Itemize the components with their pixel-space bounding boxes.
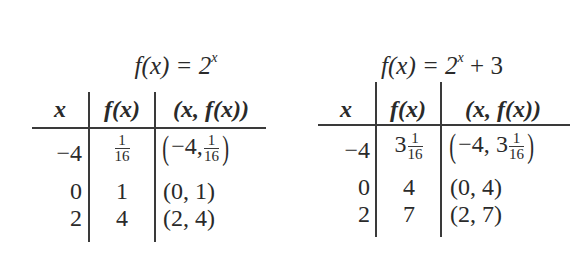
title-function: f(x) = 2 xyxy=(135,52,212,79)
cell-x: 2 xyxy=(32,205,82,232)
cell-fx: 4 xyxy=(377,174,441,201)
cell-pair: (−4, 3116) xyxy=(447,129,572,163)
title-suffix: + 3 xyxy=(464,52,503,79)
cell-fx: 1 xyxy=(90,178,154,205)
cell-pair: (0, 4) xyxy=(450,174,570,201)
fraction-denominator: 16 xyxy=(509,147,524,162)
fraction: 116 xyxy=(115,133,130,164)
cell-fx: 7 xyxy=(377,201,441,228)
close-paren: ) xyxy=(222,131,229,165)
header-divider xyxy=(32,127,266,129)
cell-x: 2 xyxy=(318,201,370,228)
fraction: 116 xyxy=(204,133,219,164)
header-pair: (x, f(x)) xyxy=(156,96,266,123)
fraction: 116 xyxy=(509,131,524,162)
pair-x: −4, xyxy=(171,133,203,159)
cell-fx: 4 xyxy=(90,205,154,232)
fraction-numerator: 1 xyxy=(204,133,219,149)
cell-x: −4 xyxy=(318,137,370,164)
title-exponent: x xyxy=(211,50,217,65)
cell-pair: (2, 7) xyxy=(450,201,570,228)
pair-x: −4, xyxy=(458,131,490,157)
header-pair: (x, f(x)) xyxy=(443,96,563,123)
close-paren: ) xyxy=(527,129,534,163)
header-fx: f(x) xyxy=(90,96,154,123)
header-fx: f(x) xyxy=(376,96,440,123)
open-paren: ( xyxy=(449,129,456,163)
cell-fx: 3116 xyxy=(377,131,441,162)
fraction: 116 xyxy=(408,131,423,162)
cell-x: 0 xyxy=(32,178,82,205)
header-divider xyxy=(318,124,570,126)
header-x: x xyxy=(318,96,374,123)
mixed-whole: 3 xyxy=(395,131,407,157)
fraction-numerator: 1 xyxy=(115,133,130,149)
cell-x: 0 xyxy=(318,174,370,201)
cell-x: −4 xyxy=(32,140,82,167)
table-title: f(x) = 2x + 3 xyxy=(352,50,532,80)
fraction-denominator: 16 xyxy=(204,149,219,164)
mixed-whole: 3 xyxy=(496,131,508,157)
title-function: f(x) = 2 xyxy=(381,52,458,79)
table-title: f(x) = 2x xyxy=(96,50,256,80)
cell-fx: 116 xyxy=(90,133,154,164)
fraction-numerator: 1 xyxy=(509,131,524,147)
cell-pair: (2, 4) xyxy=(163,205,273,232)
cell-pair: (−4,116) xyxy=(160,131,270,165)
header-x: x xyxy=(32,96,88,123)
fraction-numerator: 1 xyxy=(408,131,423,147)
column-divider-2 xyxy=(154,92,156,242)
fraction-denominator: 16 xyxy=(408,147,423,162)
open-paren: ( xyxy=(162,131,169,165)
cell-pair: (0, 1) xyxy=(163,178,273,205)
fraction-denominator: 16 xyxy=(115,149,130,164)
